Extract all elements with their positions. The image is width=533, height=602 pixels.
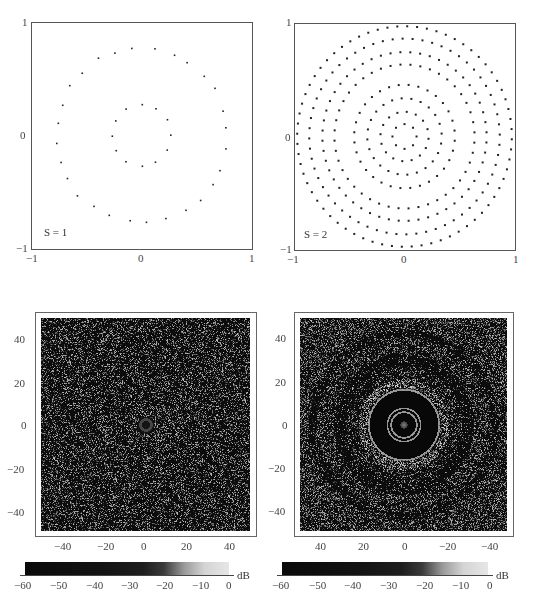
y-tick: 40 (14, 334, 25, 345)
colorbar-tick: −30 (380, 580, 397, 591)
colorbar-gradient (282, 562, 488, 575)
colorbar-tick: −40 (86, 580, 103, 591)
y-tick: 40 (275, 333, 286, 344)
y-tick: 0 (285, 132, 291, 143)
panel-label: S = 1 (44, 226, 67, 238)
x-tick: −20 (439, 541, 456, 552)
colorbar-tick: −20 (416, 580, 433, 591)
colorbar-axis (20, 575, 234, 576)
y-tick: −40 (7, 507, 24, 518)
y-tick: −20 (268, 463, 285, 474)
x-tick: 1 (249, 253, 255, 264)
plot-frame (294, 312, 514, 537)
colorbar-gradient (25, 562, 229, 575)
x-tick: 0 (401, 254, 407, 265)
panel-label: S = 2 (304, 228, 327, 240)
y-tick: 20 (275, 377, 286, 388)
plot-frame (31, 22, 253, 250)
x-tick: 20 (181, 541, 192, 552)
x-tick: 1 (513, 254, 519, 265)
colorbar-tick: −30 (121, 580, 138, 591)
colorbar-tick: 0 (226, 580, 232, 591)
colorbar-tick: −50 (50, 580, 67, 591)
y-tick: 0 (21, 420, 27, 431)
array-scatter-s1 (32, 23, 251, 248)
x-tick: 40 (315, 541, 326, 552)
colorbar-tick: 0 (487, 580, 493, 591)
colorbar-unit: dB (237, 569, 250, 581)
y-tick: 0 (20, 130, 26, 141)
colorbar-tick: −10 (452, 580, 469, 591)
x-tick: −20 (97, 541, 114, 552)
x-tick: 0 (402, 541, 408, 552)
y-tick: −20 (7, 464, 24, 475)
y-tick: 0 (282, 420, 288, 431)
colorbar-tick: −40 (344, 580, 361, 591)
colorbar-tick: −50 (309, 580, 326, 591)
colorbar-axis (277, 575, 493, 576)
beam-pattern-s2 (300, 318, 507, 531)
colorbar-tick: −60 (272, 580, 289, 591)
x-tick: 0 (141, 541, 147, 552)
plot-frame (294, 23, 516, 251)
x-tick: −1 (26, 253, 38, 264)
array-scatter-s2 (295, 24, 514, 249)
x-tick: −40 (481, 541, 498, 552)
x-tick: −1 (287, 254, 299, 265)
colorbar-unit: dB (496, 569, 509, 581)
plot-frame (35, 312, 257, 537)
x-tick: −40 (54, 541, 71, 552)
x-tick: 40 (224, 541, 235, 552)
colorbar-tick: −10 (192, 580, 209, 591)
beam-pattern-s1 (41, 318, 250, 531)
y-tick: 1 (286, 17, 292, 28)
x-tick: 0 (138, 253, 144, 264)
colorbar-tick: −60 (14, 580, 31, 591)
x-tick: 20 (358, 541, 369, 552)
colorbar-tick: −20 (156, 580, 173, 591)
y-tick: 1 (22, 17, 28, 28)
y-tick: 20 (14, 378, 25, 389)
y-tick: −40 (268, 506, 285, 517)
